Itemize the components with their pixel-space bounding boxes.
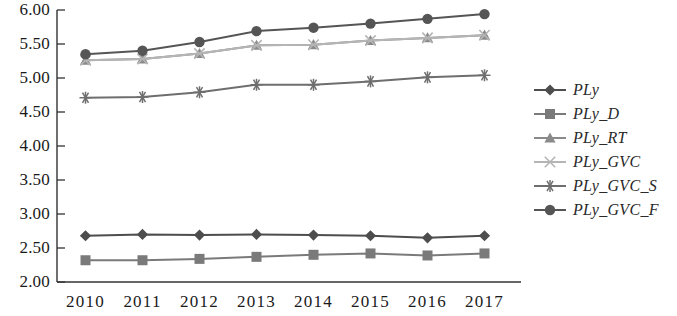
legend-label: PLy: [573, 81, 599, 99]
legend-label: PLy_GVC_F: [573, 201, 659, 219]
legend-item-PLy[interactable]: PLy: [533, 78, 677, 102]
data-point-circle: [479, 9, 489, 19]
y-tick-label: 2.00: [2, 272, 50, 292]
y-tick-label: 4.50: [2, 102, 50, 122]
line-chart: 2.002.503.003.504.004.505.005.506.00 201…: [0, 0, 677, 316]
legend-item-PLy_GVC[interactable]: PLy_GVC: [533, 150, 677, 174]
data-point-circle: [251, 26, 261, 36]
data-point-diamond: [194, 229, 205, 240]
series-PLy_D: [81, 248, 490, 265]
series-PLy: [80, 229, 490, 244]
y-tick-label: 5.00: [2, 68, 50, 88]
chart-legend: PLyPLy_DPLy_RTPLy_GVCPLy_GVC_SPLy_GVC_F: [533, 78, 677, 222]
legend-label: PLy_D: [573, 105, 619, 123]
legend-item-PLy_GVC_F[interactable]: PLy_GVC_F: [533, 198, 677, 222]
data-point-asterisk: [251, 79, 263, 91]
data-point-square: [423, 250, 433, 260]
data-point-square: [545, 109, 555, 119]
data-point-diamond: [308, 229, 319, 240]
x-tick-label: 2011: [113, 292, 173, 312]
data-point-diamond: [251, 229, 262, 240]
data-point-circle: [365, 18, 375, 28]
legend-item-PLy_D[interactable]: PLy_D: [533, 102, 677, 126]
data-point-diamond: [422, 232, 433, 243]
data-point-asterisk: [422, 71, 434, 83]
data-point-diamond: [479, 230, 490, 241]
data-point-square: [480, 248, 490, 258]
x-tick-label: 2013: [227, 292, 287, 312]
data-point-asterisk: [194, 86, 206, 98]
x-tick-label: 2012: [170, 292, 230, 312]
data-point-asterisk: [365, 75, 377, 87]
data-point-asterisk: [308, 79, 320, 91]
series-PLy_GVC_S: [80, 69, 491, 103]
legend-label: PLy_GVC_S: [573, 177, 657, 195]
x-tick-label: 2016: [398, 292, 458, 312]
data-point-diamond: [80, 230, 91, 241]
data-point-diamond: [544, 84, 555, 95]
data-point-square: [309, 250, 319, 260]
data-point-circle: [194, 37, 204, 47]
data-point-asterisk: [479, 69, 491, 81]
legend-label: PLy_GVC: [573, 153, 640, 171]
data-point-square: [138, 255, 148, 265]
data-point-square: [195, 254, 205, 264]
data-point-square: [252, 252, 262, 262]
data-point-diamond: [365, 230, 376, 241]
data-point-circle: [308, 22, 318, 32]
legend-marker-circle-icon: [533, 201, 567, 219]
legend-item-PLy_GVC_S[interactable]: PLy_GVC_S: [533, 174, 677, 198]
legend-item-PLy_RT[interactable]: PLy_RT: [533, 126, 677, 150]
y-tick-label: 6.00: [2, 0, 50, 20]
legend-marker-diamond-icon: [533, 81, 567, 99]
legend-marker-x-icon: [533, 153, 567, 171]
y-tick-label: 4.00: [2, 136, 50, 156]
x-tick-label: 2014: [284, 292, 344, 312]
data-point-asterisk: [137, 91, 149, 103]
x-tick-label: 2015: [341, 292, 401, 312]
y-tick-label: 5.50: [2, 34, 50, 54]
data-point-asterisk: [544, 180, 556, 192]
legend-marker-asterisk-icon: [533, 177, 567, 195]
data-point-square: [81, 255, 91, 265]
x-tick-label: 2010: [56, 292, 116, 312]
series-lines: [80, 9, 491, 265]
data-point-asterisk: [80, 92, 92, 104]
data-point-circle: [545, 205, 555, 215]
y-tick-label: 3.00: [2, 204, 50, 224]
y-tick-label: 3.50: [2, 170, 50, 190]
data-point-circle: [137, 46, 147, 56]
x-tick-label: 2017: [455, 292, 515, 312]
data-point-diamond: [137, 229, 148, 240]
y-tick-label: 2.50: [2, 238, 50, 258]
series-line: [86, 75, 485, 97]
legend-marker-triangle-icon: [533, 129, 567, 147]
legend-marker-square-icon: [533, 105, 567, 123]
data-point-circle: [80, 49, 90, 59]
data-point-circle: [422, 14, 432, 24]
legend-label: PLy_RT: [573, 129, 627, 147]
data-point-square: [366, 248, 376, 258]
